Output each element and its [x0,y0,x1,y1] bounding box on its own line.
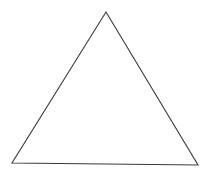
figure-canvas [0,0,211,172]
triangle-drawing [0,0,211,172]
triangle-shape [12,12,198,165]
